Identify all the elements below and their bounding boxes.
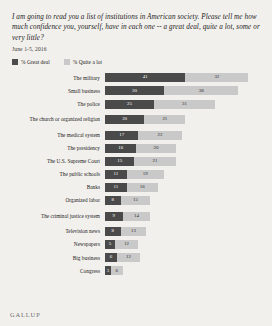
chart-row: Television news813 <box>8 225 262 238</box>
bar-value-great-deal: 8 <box>112 229 114 234</box>
bar-segment-great-deal: 6 <box>105 253 117 262</box>
chart-row: Banks1116 <box>8 181 262 194</box>
legend-label-quite-a-lot: % Quite a lot <box>73 59 102 65</box>
bar-value-quite-a-lot: 16 <box>140 185 145 190</box>
bar-group: 612 <box>105 253 262 262</box>
bar-value-great-deal: 15 <box>117 159 122 164</box>
bar-group: 1620 <box>105 144 262 153</box>
bar-segment-quite-a-lot: 6 <box>111 266 123 275</box>
gallup-confidence-chart: I am going to read you a list of institu… <box>0 0 272 326</box>
bar-segment-quite-a-lot: 15 <box>121 196 150 205</box>
chart-row: The presidency1620 <box>8 142 262 155</box>
bar-value-quite-a-lot: 22 <box>158 133 163 138</box>
bar-segment-great-deal: 11 <box>105 183 127 192</box>
bar-group: 1116 <box>105 183 262 192</box>
bar-value-quite-a-lot: 13 <box>131 229 136 234</box>
bar-value-quite-a-lot: 6 <box>116 269 118 274</box>
bar-group: 1722 <box>105 131 262 140</box>
chart-row: The medical system1722 <box>8 129 262 142</box>
legend-label-great-deal: % Great deal <box>21 59 50 65</box>
bar-value-quite-a-lot: 21 <box>153 159 158 164</box>
bar-segment-quite-a-lot: 21 <box>134 157 175 166</box>
bar-value-quite-a-lot: 20 <box>154 146 159 151</box>
bar-value-quite-a-lot: 12 <box>126 255 131 260</box>
bar-segment-quite-a-lot: 20 <box>136 144 175 153</box>
page-title: I am going to read you a list of institu… <box>12 12 260 43</box>
bar-value-great-deal: 11 <box>113 185 118 190</box>
bar-segment-quite-a-lot: 16 <box>127 183 158 192</box>
legend-item-quite-a-lot: % Quite a lot <box>64 59 102 65</box>
category-label: The public schools <box>8 171 105 178</box>
bar-value-quite-a-lot: 32 <box>214 75 219 80</box>
category-label: The criminal justice system <box>8 213 105 220</box>
chart-row: Small business3038 <box>8 84 262 97</box>
chart-legend: % Great deal % Quite a lot <box>12 59 262 65</box>
chart-row: The police2531 <box>8 98 262 111</box>
bar-segment-quite-a-lot: 19 <box>127 170 164 179</box>
bar-segment-quite-a-lot: 12 <box>115 240 139 249</box>
category-label: The police <box>8 101 105 108</box>
bar-value-quite-a-lot: 38 <box>199 89 204 94</box>
bar-value-quite-a-lot: 21 <box>162 117 167 122</box>
category-label: The medical system <box>8 132 105 139</box>
bar-segment-great-deal: 9 <box>105 212 123 221</box>
bar-value-quite-a-lot: 12 <box>124 242 129 247</box>
bar-group: 1119 <box>105 170 262 179</box>
bar-group: 36 <box>105 266 262 275</box>
bar-segment-quite-a-lot: 21 <box>144 115 185 124</box>
category-label: The presidency <box>8 145 105 152</box>
bar-value-great-deal: 3 <box>107 269 109 274</box>
bar-group: 2021 <box>105 115 262 124</box>
bar-group: 4132 <box>105 73 262 82</box>
bar-segment-quite-a-lot: 13 <box>121 227 147 236</box>
chart-row: The military4132 <box>8 71 262 84</box>
bar-value-quite-a-lot: 14 <box>134 214 139 219</box>
bar-value-great-deal: 8 <box>112 198 114 203</box>
chart-row: Congress36 <box>8 264 262 277</box>
chart-row: The criminal justice system914 <box>8 207 262 225</box>
legend-item-great-deal: % Great deal <box>12 59 50 65</box>
bar-segment-quite-a-lot: 38 <box>164 86 239 95</box>
bar-segment-great-deal: 16 <box>105 144 136 153</box>
bar-segment-great-deal: 17 <box>105 131 138 140</box>
bar-value-great-deal: 30 <box>132 89 137 94</box>
bar-segment-great-deal: 15 <box>105 157 134 166</box>
bar-value-great-deal: 5 <box>109 242 111 247</box>
bar-value-great-deal: 6 <box>110 255 112 260</box>
bar-group: 914 <box>105 212 262 221</box>
great-deal-swatch-icon <box>12 59 18 65</box>
bar-segment-great-deal: 11 <box>105 170 127 179</box>
bar-segment-great-deal: 8 <box>105 196 121 205</box>
chart-row: The U.S. Supreme Court1521 <box>8 155 262 168</box>
category-label: Congress <box>8 268 105 275</box>
chart-plot-area: The military4132Small business3038The po… <box>8 71 262 277</box>
bar-segment-great-deal: 5 <box>105 240 115 249</box>
bar-value-quite-a-lot: 19 <box>143 172 148 177</box>
category-label: The U.S. Supreme Court <box>8 158 105 165</box>
bar-group: 2531 <box>105 100 262 109</box>
bar-value-great-deal: 20 <box>122 117 127 122</box>
bar-segment-great-deal: 20 <box>105 115 144 124</box>
bar-value-great-deal: 17 <box>119 133 124 138</box>
bar-group: 512 <box>105 240 262 249</box>
gallup-logo: GALLUP <box>10 311 41 318</box>
bar-segment-great-deal: 25 <box>105 100 154 109</box>
chart-row: Newspapers512 <box>8 238 262 251</box>
chart-row: Organized labor815 <box>8 194 262 207</box>
category-label: Television news <box>8 228 105 235</box>
category-label: Newspapers <box>8 241 105 248</box>
bar-group: 3038 <box>105 86 262 95</box>
bar-segment-great-deal: 8 <box>105 227 121 236</box>
category-label: Organized labor <box>8 197 105 204</box>
bar-value-quite-a-lot: 31 <box>182 102 187 107</box>
bar-value-great-deal: 11 <box>113 172 118 177</box>
chart-row: The public schools1119 <box>8 168 262 181</box>
bar-group: 1521 <box>105 157 262 166</box>
bar-segment-quite-a-lot: 31 <box>154 100 215 109</box>
category-label: Small business <box>8 88 105 95</box>
category-label: The military <box>8 75 105 82</box>
bar-value-quite-a-lot: 15 <box>133 198 138 203</box>
bar-segment-quite-a-lot: 22 <box>138 131 181 140</box>
bar-segment-quite-a-lot: 12 <box>117 253 141 262</box>
bar-value-great-deal: 41 <box>143 75 148 80</box>
